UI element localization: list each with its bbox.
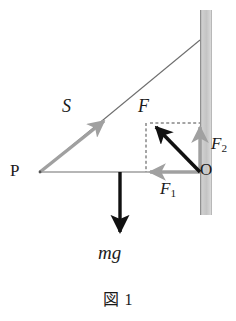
label-vector-s: S [62,97,71,115]
figure-container: P O S F F1 F2 mg 図 1 [0,0,236,321]
tension-vector-S [40,121,104,172]
wall [200,10,212,215]
label-vector-f1-base: F [160,179,170,198]
label-vector-f: F [138,97,149,115]
label-point-o: O [200,161,212,178]
label-vector-f1-subscript: 1 [170,187,176,199]
joint-P [39,171,42,174]
label-point-p: P [10,162,19,179]
label-vector-f2-subscript: 2 [221,142,227,154]
resultant-vector-F [156,127,200,172]
figure-caption: 図 1 [0,286,236,310]
label-vector-mg: mg [98,243,121,262]
label-vector-f2: F2 [211,135,227,154]
label-vector-f1: F1 [160,180,176,199]
label-vector-f2-base: F [211,134,221,153]
